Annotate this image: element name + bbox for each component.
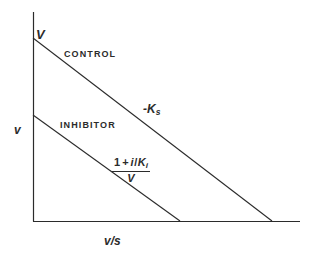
y-axis-label: v [14, 124, 21, 136]
numerator-K: K [138, 156, 146, 168]
inhibitor-line [33, 115, 180, 221]
inhibitor-slope-denominator: V [112, 172, 150, 184]
plot-canvas [0, 0, 313, 264]
control-slope-subscript: s [156, 107, 161, 117]
inhibitor-slope-label: 1+i/Ki V [112, 157, 150, 184]
control-slope-base: -K [143, 102, 156, 116]
eadie-hofstee-figure: V v v/s CONTROL INHIBITOR -Ks 1+i/Ki V [0, 0, 313, 264]
inhibitor-line-label: INHIBITOR [60, 121, 116, 130]
y-intercept-label: V [36, 28, 45, 41]
inhibitor-slope-numerator: 1+i/Ki [112, 157, 150, 172]
numerator-one: 1 [114, 156, 120, 168]
numerator-plus: + [122, 156, 128, 168]
control-slope-label: -Ks [143, 103, 160, 117]
x-axis-label: v/s [104, 235, 121, 247]
control-line-label: CONTROL [64, 50, 116, 59]
numerator-K-subscript: i [146, 161, 148, 170]
